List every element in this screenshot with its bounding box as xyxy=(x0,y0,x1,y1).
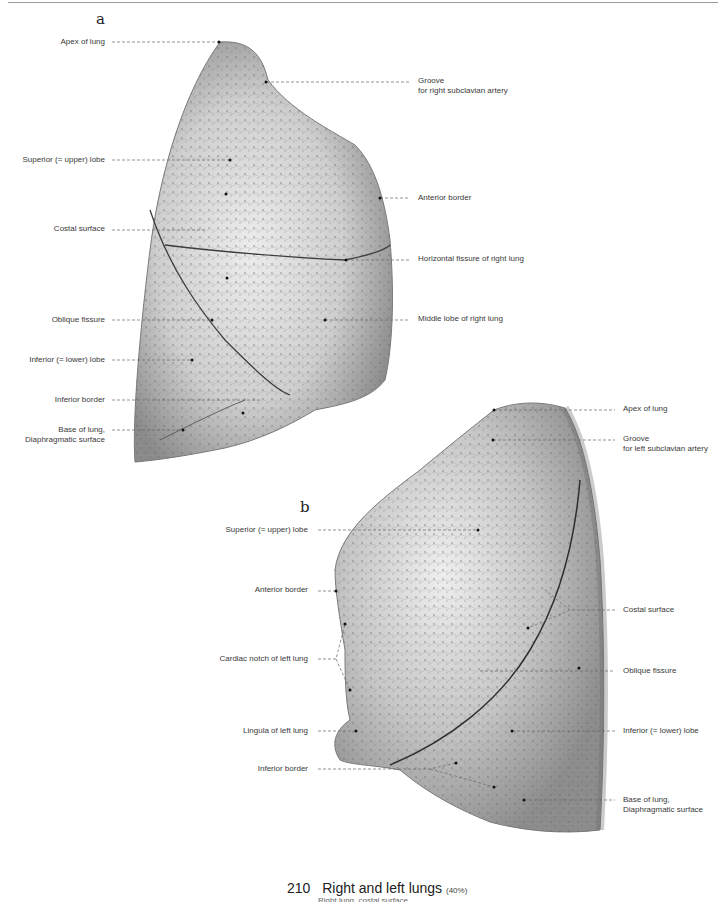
label-diaphragmatic-surface-b: Diaphragmatic surface xyxy=(623,805,703,815)
label-inferior-lobe-b: Inferior (= lower) lobe xyxy=(623,726,699,736)
label-apex-of-lung-a: Apex of lung xyxy=(61,37,105,47)
label-oblique-fissure-a: Oblique fissure xyxy=(52,315,105,325)
label-diaphragmatic-surface-a: Diaphragmatic surface xyxy=(25,435,105,445)
label-middle-lobe: Middle lobe of right lung xyxy=(418,314,503,324)
label-lingula: Lingula of left lung xyxy=(243,726,308,736)
label-groove-subclavian-a: for right subclavian artery xyxy=(418,86,508,96)
figure-title: Right and left lungs xyxy=(322,880,442,896)
label-inferior-border-a: Inferior border xyxy=(55,395,105,405)
label-cardiac-notch: Cardiac notch of left lung xyxy=(220,654,309,664)
label-oblique-fissure-b: Oblique fissure xyxy=(623,666,676,676)
label-base-of-lung-a: Base of lung, xyxy=(58,425,105,435)
figure-caption-subline: Right lung, costal surface xyxy=(318,896,408,902)
label-apex-of-lung-b: Apex of lung xyxy=(623,404,667,414)
label-costal-surface-a: Costal surface xyxy=(54,224,105,234)
label-horizontal-fissure: Horizontal fissure of right lung xyxy=(418,254,524,264)
figure-scale: (40%) xyxy=(446,886,467,895)
label-inferior-border-b: Inferior border xyxy=(258,764,308,774)
label-superior-lobe-a: Superior (= upper) lobe xyxy=(23,155,106,165)
lungs-illustration xyxy=(0,0,726,902)
label-base-of-lung-b: Base of lung, xyxy=(623,795,670,805)
figure-number: 210 xyxy=(287,880,310,896)
panel-a-letter: a xyxy=(96,10,105,28)
label-groove-subclavian-b: for left subclavian artery xyxy=(623,444,708,454)
label-groove-a: Groove xyxy=(418,76,444,86)
label-costal-surface-b: Costal surface xyxy=(623,605,674,615)
label-inferior-lobe-a: Inferior (= lower) lobe xyxy=(29,355,105,365)
label-groove-b: Groove xyxy=(623,434,649,444)
panel-b-letter: b xyxy=(300,498,310,516)
right-lung xyxy=(134,42,392,462)
label-anterior-border-b: Anterior border xyxy=(255,585,308,595)
label-superior-lobe-b: Superior (= upper) lobe xyxy=(226,525,309,535)
figure-caption: 210 Right and left lungs (40%) xyxy=(287,880,467,896)
label-anterior-border-a: Anterior border xyxy=(418,193,471,203)
left-lung xyxy=(335,403,604,832)
